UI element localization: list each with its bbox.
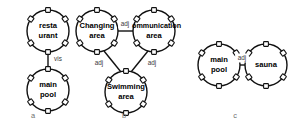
node-label: resta [39, 21, 58, 30]
node-changing-area[interactable]: Changingarea [76, 8, 118, 55]
node-port-icon[interactable] [46, 8, 51, 13]
node-label: main [39, 80, 57, 89]
node-port-icon[interactable] [264, 42, 269, 47]
node-label: area [118, 92, 134, 101]
svg-text:adj: adj [95, 59, 104, 67]
svg-text:vis: vis [54, 55, 62, 62]
node-port-icon[interactable] [46, 67, 51, 72]
svg-text:adj: adj [148, 59, 157, 67]
node-label: sauna [255, 60, 278, 69]
node-port-icon[interactable] [152, 50, 157, 55]
node-main-pool-a[interactable]: mainpool [27, 67, 69, 114]
graph-figure: restaurantmainpoolChangingareaCommunicat… [0, 0, 298, 127]
edge-label: adj [118, 20, 132, 29]
edge-label: adj [145, 59, 159, 68]
node-label: pool [211, 65, 227, 74]
node-port-icon[interactable] [95, 50, 100, 55]
node-label: urant [39, 31, 58, 40]
node-main-pool-c[interactable]: mainpool [198, 42, 240, 89]
edge-changing-area-swimming-area [104, 51, 121, 72]
node-label: main [210, 55, 228, 64]
node-sauna[interactable]: sauna [245, 42, 287, 89]
node-label: area [146, 31, 162, 40]
node-label: pool [40, 90, 56, 99]
node-label: area [89, 31, 105, 40]
node-port-icon[interactable] [95, 8, 100, 13]
panel-caption-c: c [233, 111, 237, 120]
node-port-icon[interactable] [46, 50, 51, 55]
edge-label: adj [92, 59, 106, 68]
node-label: Swimming [107, 82, 145, 91]
node-communication-area[interactable]: Communicationarea [127, 8, 181, 55]
edge-label: adj [235, 54, 249, 63]
node-label: Changing [79, 21, 114, 30]
edge-label: vis [51, 55, 65, 64]
node-restaurant[interactable]: restaurant [27, 8, 69, 55]
svg-text:adj: adj [238, 54, 247, 62]
node-port-icon[interactable] [217, 42, 222, 47]
panel-captions-layer: abc [31, 111, 237, 120]
node-port-icon[interactable] [152, 8, 157, 13]
node-swimming-area[interactable]: Swimmingarea [105, 69, 147, 116]
svg-text:adj: adj [121, 20, 130, 28]
node-port-icon[interactable] [264, 84, 269, 89]
node-port-icon[interactable] [124, 69, 129, 74]
diagram-canvas: restaurantmainpoolChangingareaCommunicat… [0, 0, 298, 127]
node-port-icon[interactable] [46, 109, 51, 114]
node-label: Communication [127, 21, 181, 30]
panel-caption-a: a [31, 111, 36, 120]
panel-caption-b: b [122, 111, 126, 120]
node-port-icon[interactable] [217, 84, 222, 89]
